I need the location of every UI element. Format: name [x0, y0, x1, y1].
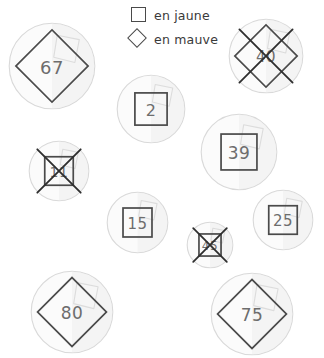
- sticker-40[interactable]: 40: [228, 18, 304, 94]
- sticker-2[interactable]: 2: [116, 74, 186, 144]
- sticker-number: 25: [273, 212, 293, 230]
- sticker-75[interactable]: 75: [210, 272, 294, 356]
- worksheet-canvas: en jaune en mauve 6740239111525458075: [0, 0, 324, 358]
- legend-label-square: en jaune: [154, 8, 210, 23]
- sticker-number: 39: [228, 143, 251, 163]
- sticker-15[interactable]: 15: [106, 191, 169, 254]
- sticker-11[interactable]: 11: [28, 140, 90, 202]
- sticker-number: 67: [40, 57, 64, 78]
- sticker-67[interactable]: 67: [8, 22, 96, 110]
- sticker-25[interactable]: 25: [252, 189, 314, 251]
- sticker-number: 80: [61, 303, 84, 323]
- sticker-number: 75: [241, 305, 264, 325]
- sticker-number: 2: [146, 101, 157, 120]
- sticker-number: 15: [127, 215, 147, 233]
- legend-label-diamond: en mauve: [154, 32, 218, 47]
- sticker-45[interactable]: 45: [186, 221, 234, 269]
- sticker-80[interactable]: 80: [30, 270, 114, 354]
- sticker-39[interactable]: 39: [200, 113, 278, 191]
- diamond-icon: [128, 28, 150, 50]
- square-icon: [128, 4, 150, 26]
